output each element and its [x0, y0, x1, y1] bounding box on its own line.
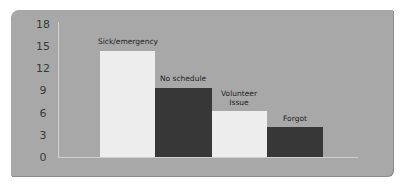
bar-label-no-schedule: No schedule [150, 74, 216, 83]
y-axis-line [58, 22, 59, 158]
y-tick-9: 9 [31, 84, 55, 97]
bar-label-forgot: Forgot [268, 114, 322, 123]
y-tick-15: 15 [31, 40, 55, 53]
bar-forgot [267, 127, 323, 157]
y-tick-3: 3 [31, 129, 55, 142]
x-axis-line [58, 157, 358, 158]
bar-label-sick-emergency: Sick/emergency [86, 37, 170, 46]
y-tick-6: 6 [31, 107, 55, 120]
y-tick-18: 18 [31, 18, 55, 31]
bar-volunteer-issue [212, 111, 267, 157]
bar-sick-emergency [100, 51, 155, 157]
bar-label-volunteer-issue: Volunteer Issue [208, 89, 270, 107]
y-tick-12: 12 [31, 62, 55, 75]
y-tick-0: 0 [31, 151, 55, 164]
bar-no-schedule [155, 88, 212, 157]
